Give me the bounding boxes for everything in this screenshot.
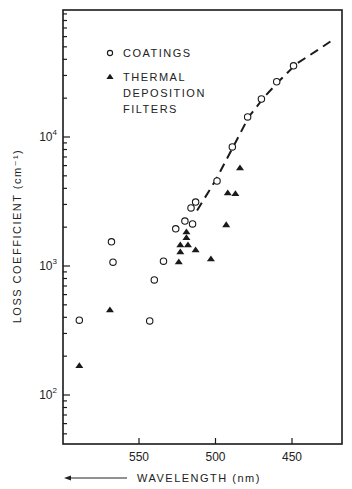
open-circle-marker (108, 239, 114, 245)
thermal-deposition-series (75, 164, 244, 368)
x-tick-label: 500 (205, 450, 225, 464)
open-circle-marker (173, 226, 179, 232)
open-circle-marker (244, 114, 250, 120)
filled-triangle-marker (192, 246, 200, 252)
filled-triangle-marker (231, 190, 239, 196)
open-circle-marker (188, 205, 194, 211)
x-tick-label: 550 (129, 450, 149, 464)
filled-triangle-marker (182, 229, 190, 235)
legend: COATINGSTHERMALDEPOSITIONFILTERS (106, 47, 205, 115)
filled-triangle-marker (75, 362, 83, 368)
filled-triangle-marker (106, 74, 113, 79)
filled-triangle-marker (184, 242, 192, 248)
plot-border (63, 10, 342, 444)
open-circle-marker (189, 221, 195, 227)
filled-triangle-marker (236, 164, 244, 170)
open-circle-marker (76, 317, 82, 323)
open-circle-marker (110, 259, 116, 265)
x-axis-title: WAVELENGTH (nm) (137, 472, 261, 484)
loss-coefficient-chart: 102103104 550500450 COATINGSTHERMALDEPOS… (0, 0, 352, 489)
x-axis-ticks: 550500450 (129, 438, 302, 464)
filled-triangle-marker (175, 259, 183, 265)
open-circle-marker (290, 63, 296, 69)
y-tick-label: 102 (39, 386, 57, 402)
open-circle-marker (258, 96, 264, 102)
filled-triangle-marker (222, 221, 230, 227)
open-circle-marker (182, 218, 188, 224)
open-circle-marker (147, 318, 153, 324)
filled-triangle-marker (176, 249, 184, 255)
legend-label: FILTERS (123, 103, 178, 115)
filled-triangle-marker (224, 189, 232, 195)
y-axis-ticks: 102103104 (39, 14, 70, 434)
open-circle-marker (192, 199, 198, 205)
open-circle-marker (214, 178, 220, 184)
x-axis-direction-arrow (64, 476, 127, 481)
dashed-fit-curve (197, 41, 332, 211)
legend-label: DEPOSITION (123, 87, 206, 99)
filled-triangle-marker (182, 234, 190, 240)
coatings-series (76, 63, 297, 324)
y-axis-title: LOSS COEFFICIENT (cm⁻¹) (11, 149, 23, 324)
open-circle-marker (274, 79, 280, 85)
filled-triangle-marker (106, 307, 114, 313)
arrow-left-icon (64, 476, 71, 481)
filled-triangle-marker (176, 242, 184, 248)
open-circle-marker (151, 277, 157, 283)
open-circle-marker (160, 258, 166, 264)
plot-frame (63, 10, 342, 444)
open-circle-marker (107, 50, 112, 55)
legend-label: THERMAL (123, 71, 186, 83)
filled-triangle-marker (207, 256, 215, 262)
legend-label: COATINGS (123, 47, 192, 59)
x-tick-label: 450 (282, 450, 302, 464)
open-circle-marker (229, 144, 235, 150)
y-tick-label: 103 (39, 257, 57, 273)
y-tick-label: 104 (39, 128, 57, 144)
